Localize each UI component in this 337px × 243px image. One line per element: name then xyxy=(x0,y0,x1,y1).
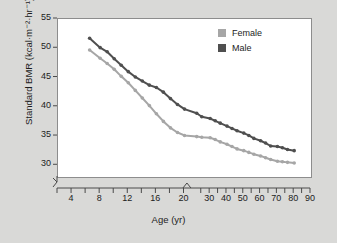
data-point-female xyxy=(148,104,152,108)
series-line-male xyxy=(90,38,295,150)
data-point-female xyxy=(105,62,109,66)
data-point-male xyxy=(235,129,239,133)
data-point-female xyxy=(230,145,234,149)
data-point-male xyxy=(213,119,217,123)
data-point-female xyxy=(195,135,199,139)
data-point-male xyxy=(242,131,246,135)
x-axis-break-mark xyxy=(183,183,191,188)
x-tick-label: 20 xyxy=(176,193,192,203)
data-point-female xyxy=(169,126,173,130)
data-point-male xyxy=(208,117,212,121)
data-point-female xyxy=(112,68,116,72)
legend-label-male: Male xyxy=(232,43,252,53)
x-tick-label: 4 xyxy=(63,193,79,203)
data-point-female xyxy=(286,161,290,165)
data-point-male xyxy=(264,141,268,145)
data-point-male xyxy=(225,124,229,128)
data-point-female xyxy=(119,75,123,79)
legend-label-female: Female xyxy=(232,28,262,38)
data-point-male xyxy=(269,144,273,148)
series-line-female xyxy=(90,50,295,163)
data-point-male xyxy=(176,103,180,107)
x-tick-label: 80 xyxy=(285,193,301,203)
x-tick-label: 16 xyxy=(147,193,163,203)
data-point-female xyxy=(235,147,239,151)
legend-item-male: Male xyxy=(218,43,262,53)
data-point-female xyxy=(242,149,246,153)
data-point-female xyxy=(141,96,145,100)
legend-swatch-female xyxy=(218,29,226,37)
data-point-female xyxy=(276,159,280,163)
legend-item-female: Female xyxy=(218,28,262,38)
data-point-female xyxy=(218,140,222,144)
data-point-male xyxy=(169,97,173,101)
data-point-male xyxy=(148,83,152,87)
data-point-male xyxy=(98,46,102,50)
x-tick-label: 70 xyxy=(268,193,284,203)
data-point-male xyxy=(195,111,199,115)
data-point-male xyxy=(105,50,109,54)
data-point-female xyxy=(259,154,263,158)
data-point-female xyxy=(126,81,130,85)
x-tick-label: 40 xyxy=(218,193,234,203)
data-point-male xyxy=(155,86,159,90)
data-point-male xyxy=(252,137,256,141)
data-point-female xyxy=(264,156,268,160)
data-point-male xyxy=(183,107,187,111)
y-axis-break-mark xyxy=(53,178,57,187)
data-point-female xyxy=(213,138,217,142)
data-point-male xyxy=(286,148,290,152)
x-tick-label: 50 xyxy=(235,193,251,203)
y-tick-label: 40 xyxy=(31,100,51,110)
data-point-male xyxy=(230,127,234,131)
data-point-female xyxy=(162,120,166,124)
data-point-female xyxy=(134,89,138,93)
data-point-male xyxy=(112,57,116,61)
data-point-female xyxy=(200,135,204,139)
data-point-male xyxy=(88,37,92,41)
data-point-male xyxy=(119,63,123,67)
data-point-male xyxy=(276,145,280,149)
data-point-female xyxy=(269,158,273,162)
y-tick-label: 55 xyxy=(31,12,51,22)
y-tick-label: 30 xyxy=(31,158,51,168)
data-point-female xyxy=(155,112,159,116)
data-point-male xyxy=(162,90,166,94)
data-point-female xyxy=(225,142,229,146)
data-point-female xyxy=(281,160,285,164)
x-tick-label: 90 xyxy=(302,193,318,203)
data-point-female xyxy=(176,131,180,135)
data-point-female xyxy=(292,161,296,165)
x-tick-label: 12 xyxy=(119,193,135,203)
data-point-female xyxy=(183,134,187,138)
data-point-female xyxy=(208,136,212,140)
data-point-male xyxy=(292,149,296,153)
data-point-male xyxy=(134,75,138,79)
y-tick-label: 45 xyxy=(31,71,51,81)
chart-legend: Female Male xyxy=(218,28,262,58)
data-point-male xyxy=(200,115,204,119)
plot-area xyxy=(57,18,312,178)
data-point-female xyxy=(98,56,102,60)
data-point-male xyxy=(247,134,251,138)
data-point-male xyxy=(281,146,285,150)
data-point-female xyxy=(252,152,256,156)
x-tick-label: 30 xyxy=(201,193,217,203)
data-point-male xyxy=(218,121,222,125)
x-tick-label: 60 xyxy=(252,193,268,203)
x-axis-title: Age (yr) xyxy=(0,214,337,225)
x-tick-label: 8 xyxy=(91,193,107,203)
data-point-male xyxy=(126,70,130,74)
data-point-female xyxy=(247,151,251,155)
data-point-male xyxy=(141,79,145,83)
legend-swatch-male xyxy=(218,44,226,52)
series-canvas xyxy=(58,19,311,177)
y-tick-label: 35 xyxy=(31,129,51,139)
data-point-male xyxy=(259,139,263,143)
y-tick-label: 50 xyxy=(31,41,51,51)
chart-figure: Standard BMR (kcal·m⁻²·hr⁻¹) 30354045505… xyxy=(0,0,337,243)
data-point-female xyxy=(88,48,92,52)
